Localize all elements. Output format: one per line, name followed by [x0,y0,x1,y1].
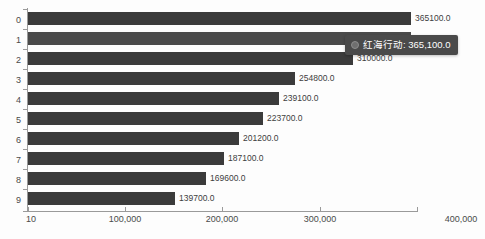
x-axis-tick-label-4: 400,000 [445,214,478,224]
chart-tooltip: 红海行动: 365,100.0 [345,35,458,55]
y-axis-tick-label-7: 7 [1,155,21,165]
bar-value-label-8: 169600.0 [210,172,245,185]
y-axis-tick-mark [23,189,28,190]
bar-value-label-4: 239100.0 [283,92,318,105]
y-axis-tick-mark [23,49,28,50]
x-axis-tick-mark [320,207,321,212]
bar-value-label-9: 139700.0 [179,192,214,205]
y-axis-tick-label-3: 3 [1,75,21,85]
y-axis-tick-label-9: 9 [1,195,21,205]
x-axis-tick-mark [222,207,223,212]
y-axis-tick-mark [23,9,28,10]
y-axis-tick-label-5: 5 [1,115,21,125]
x-axis-tick-mark [28,207,29,212]
bar-5[interactable] [28,112,263,125]
y-axis-tick-mark [23,129,28,130]
bar-value-label-5: 223700.0 [267,112,302,125]
bar-value-label-0: 365100.0 [415,12,450,25]
tooltip-text: 红海行动: 365,100.0 [363,39,451,51]
y-axis-tick-label-2: 2 [1,55,21,65]
y-axis-tick-label-1: 1 [1,35,21,45]
y-axis-tick-mark [23,169,28,170]
bar-6[interactable] [28,132,239,145]
y-axis-tick-mark [23,29,28,30]
x-axis-tick-mark [125,207,126,212]
bar-2[interactable] [28,52,353,65]
y-axis-tick-mark [23,149,28,150]
bar-7[interactable] [28,152,224,165]
x-axis-tick-label-2: 200,000 [206,214,239,224]
bar-3[interactable] [28,72,295,85]
bar-8[interactable] [28,172,206,185]
x-axis-tick-label-1: 100,000 [109,214,142,224]
y-axis-tick-label-0: 0 [1,15,21,25]
y-axis-tick-mark [23,109,28,110]
series-marker-icon [351,41,359,49]
bar-chart: 0 1 2 3 4 5 6 7 8 9 365100.0 310000.0 25… [0,0,485,239]
y-axis-tick-mark [23,89,28,90]
bar-0[interactable] [28,12,411,25]
x-axis-tick-label-0: 10 [26,214,36,224]
y-axis-tick-label-8: 8 [1,175,21,185]
y-axis-tick-label-6: 6 [1,135,21,145]
bar-value-label-3: 254800.0 [299,72,334,85]
bar-4[interactable] [28,92,279,105]
bar-value-label-6: 201200.0 [243,132,278,145]
x-axis-tick-mark [417,207,418,212]
x-axis-tick-label-3: 300,000 [304,214,337,224]
y-axis-labels: 0 1 2 3 4 5 6 7 8 9 [0,0,21,239]
bar-9[interactable] [28,192,175,205]
y-axis-tick-label-4: 4 [1,95,21,105]
bar-value-label-7: 187100.0 [228,152,263,165]
y-axis-tick-mark [23,69,28,70]
